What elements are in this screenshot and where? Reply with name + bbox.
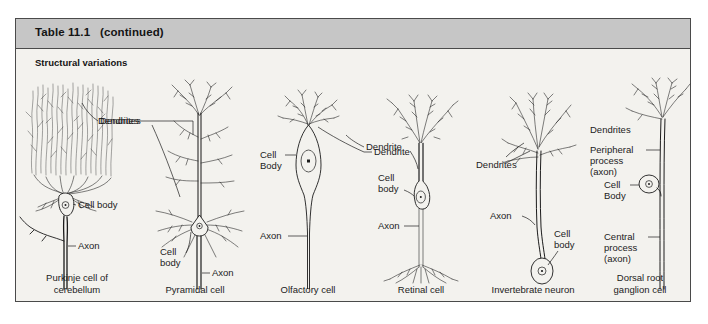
label-olfactory-cell-body-2: Body	[260, 160, 282, 171]
label-olfactory-axon: Axon	[260, 230, 282, 241]
panel-invertebrate: Dendrites Axon Cell body Invertebrate ne…	[478, 77, 588, 301]
retinal-drawing: Dendrite Cell body Axon	[364, 77, 478, 289]
caption-line-1: Dorsal root	[588, 272, 692, 284]
caption-line-2: ganglion cell	[588, 284, 692, 296]
label-invertebrate-axon: Axon	[490, 210, 512, 221]
pyramidal-drawing: Dendrites Cell body Axon	[138, 77, 252, 289]
section-heading: Structural variations	[35, 57, 127, 68]
label-purkinje-axon: Axon	[78, 240, 100, 251]
panel-retinal: Dendrite Cell body Axon Retinal cell	[364, 77, 478, 301]
label-purkinje-cell-body: Cell body	[78, 199, 118, 210]
purkinje-drawing: Dendrites Cell body Axon	[16, 77, 138, 289]
label-drg-dendrites: Dendrites	[590, 124, 631, 135]
label-invertebrate-cell-body-2: body	[554, 239, 575, 250]
caption-invertebrate: Invertebrate neuron	[478, 284, 588, 296]
caption-line-2: cerebellum	[16, 284, 138, 296]
caption-line-1: Pyramidal cell	[138, 284, 252, 296]
table-title: Table 11.1 (continued)	[35, 26, 164, 38]
label-retinal-cell-body-1: Cell	[378, 172, 394, 183]
olfactory-drawing: Cell Body Dendrite Axon	[252, 77, 364, 289]
caption-line-1: Olfactory cell	[252, 284, 364, 296]
label-drg-central-3: (axon)	[604, 253, 631, 264]
label-drg-cell-body-1: Cell	[604, 179, 620, 190]
caption-purkinje: Purkinje cell of cerebellum	[16, 272, 138, 295]
label-pyramidal-dendrites: Dendrites	[98, 115, 139, 126]
label-drg-peripheral-3: (axon)	[590, 166, 617, 177]
label-drg-peripheral-1: Peripheral	[590, 144, 633, 155]
label-drg-cell-body-2: Body	[604, 190, 626, 201]
invertebrate-drawing: Dendrites Axon Cell body	[478, 77, 588, 289]
figure-frame: Table 11.1 (continued) Structural variat…	[15, 18, 691, 302]
label-drg-central-1: Central	[604, 231, 635, 242]
label-pyramidal-cell-body-1: Cell	[160, 246, 176, 257]
label-drg-central-2: process	[604, 242, 638, 253]
panels-row: Dendrites Cell body Axon Purkinje cell o…	[16, 77, 692, 301]
caption-olfactory: Olfactory cell	[252, 284, 364, 296]
caption-line-1: Purkinje cell of	[16, 272, 138, 284]
label-drg-peripheral-2: process	[590, 155, 624, 166]
label-invertebrate-cell-body-1: Cell	[554, 228, 570, 239]
label-olfactory-cell-body-1: Cell	[260, 149, 276, 160]
panel-purkinje: Dendrites Cell body Axon Purkinje cell o…	[16, 77, 138, 301]
dorsal-root-ganglion-drawing: Dendrites Peripheral process (axon) Cell…	[588, 77, 692, 289]
caption-pyramidal: Pyramidal cell	[138, 284, 252, 296]
label-retinal-axon: Axon	[378, 220, 400, 231]
label-retinal-dendrite: Dendrite	[366, 141, 402, 152]
caption-retinal: Retinal cell	[364, 284, 478, 296]
caption-line-1: Retinal cell	[364, 284, 478, 296]
label-pyramidal-cell-body-2: body	[160, 257, 181, 268]
panel-dorsal-root-ganglion: Dendrites Peripheral process (axon) Cell…	[588, 77, 692, 301]
label-pyramidal-axon: Axon	[212, 267, 234, 278]
label-retinal-cell-body-2: body	[378, 183, 399, 194]
caption-line-1: Invertebrate neuron	[478, 284, 588, 296]
panel-pyramidal: Dendrites Cell body Axon Pyramidal cell	[138, 77, 252, 301]
panel-olfactory: Cell Body Dendrite Axon Olfactory cell	[252, 77, 364, 301]
caption-dorsal-root-ganglion: Dorsal root ganglion cell	[588, 272, 692, 295]
